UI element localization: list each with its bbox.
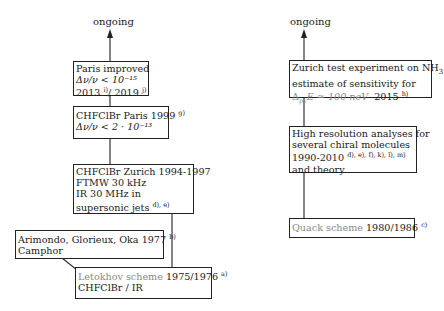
box-text: IR 30 MHz in	[76, 188, 191, 199]
box-paris-improved: Paris improved Δν/ν < 10⁻¹⁵ 2013 i)/ 201…	[73, 61, 149, 96]
box-text: Quack scheme 1980/1986 c)	[292, 220, 412, 233]
box-math: Δν/ν < 10⁻¹⁵	[76, 74, 146, 85]
box-math: Δν/ν < 2 · 10⁻¹³	[76, 121, 166, 132]
box-high-resolution: High resolution analyses for several chi…	[289, 126, 417, 173]
box-text: 1990-2010 d), e), f), k), l), m)	[292, 150, 414, 163]
box-text: CHFClBr Paris 1999 g)	[76, 108, 166, 121]
box-text: CHFClBr / IR	[78, 282, 209, 293]
box-text: Paris improved	[76, 63, 146, 74]
box-text: several chiral molecules	[292, 139, 414, 150]
box-text: FTMW 30 kHz	[76, 177, 191, 188]
box-text: Camphor	[18, 245, 161, 256]
box-quack: Quack scheme 1980/1986 c)	[289, 218, 415, 238]
box-text: High resolution analyses for	[292, 128, 414, 139]
box-text: Zurich test experiment on NH3,	[292, 62, 429, 78]
box-text: CHFClBr Zurich 1994-1997	[76, 166, 191, 177]
box-text: 2013 i)/ 2019 j)	[76, 85, 146, 98]
box-chfclbr-paris: CHFClBr Paris 1999 g) Δν/ν < 2 · 10⁻¹³	[73, 106, 169, 139]
box-zurich-test: Zurich test experiment on NH3, estimate …	[289, 60, 432, 98]
box-text: estimate of sensitivity for	[292, 78, 429, 89]
left-ongoing-label: ongoing	[93, 16, 134, 27]
box-arimondo: Arimondo, Glorieux, Oka 1977 b) Camphor	[15, 230, 164, 259]
box-letokhov: Letokhov scheme 1975/1976 a) CHFClBr / I…	[75, 267, 212, 299]
box-text: and theory	[292, 164, 414, 175]
right-ongoing-label: ongoing	[290, 16, 331, 27]
box-text: supersonic jets d), e)	[76, 200, 191, 213]
box-text: Arimondo, Glorieux, Oka 1977 b)	[18, 232, 161, 245]
box-chfclbr-zurich: CHFClBr Zurich 1994-1997 FTMW 30 kHz IR …	[73, 164, 194, 214]
box-text: Letokhov scheme 1975/1976 a)	[78, 269, 209, 282]
box-math: ΔpvE ≃ 100 neV 2015 h)	[292, 89, 429, 107]
